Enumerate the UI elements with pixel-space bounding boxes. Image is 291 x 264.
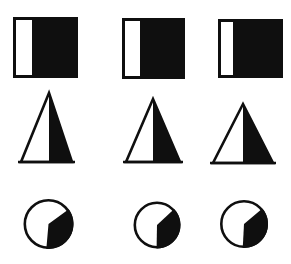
triangle-1 (18, 93, 75, 162)
shape-grid-svg (0, 0, 291, 264)
triangle-2 (123, 99, 183, 162)
shape-grid-figure (0, 0, 291, 264)
square-1 (15, 17, 79, 78)
circle-1 (25, 200, 74, 249)
circle-2 (135, 203, 181, 249)
circle-3 (221, 201, 268, 248)
square-2 (124, 18, 186, 79)
square-3 (220, 19, 284, 78)
triangle-3 (210, 104, 276, 163)
